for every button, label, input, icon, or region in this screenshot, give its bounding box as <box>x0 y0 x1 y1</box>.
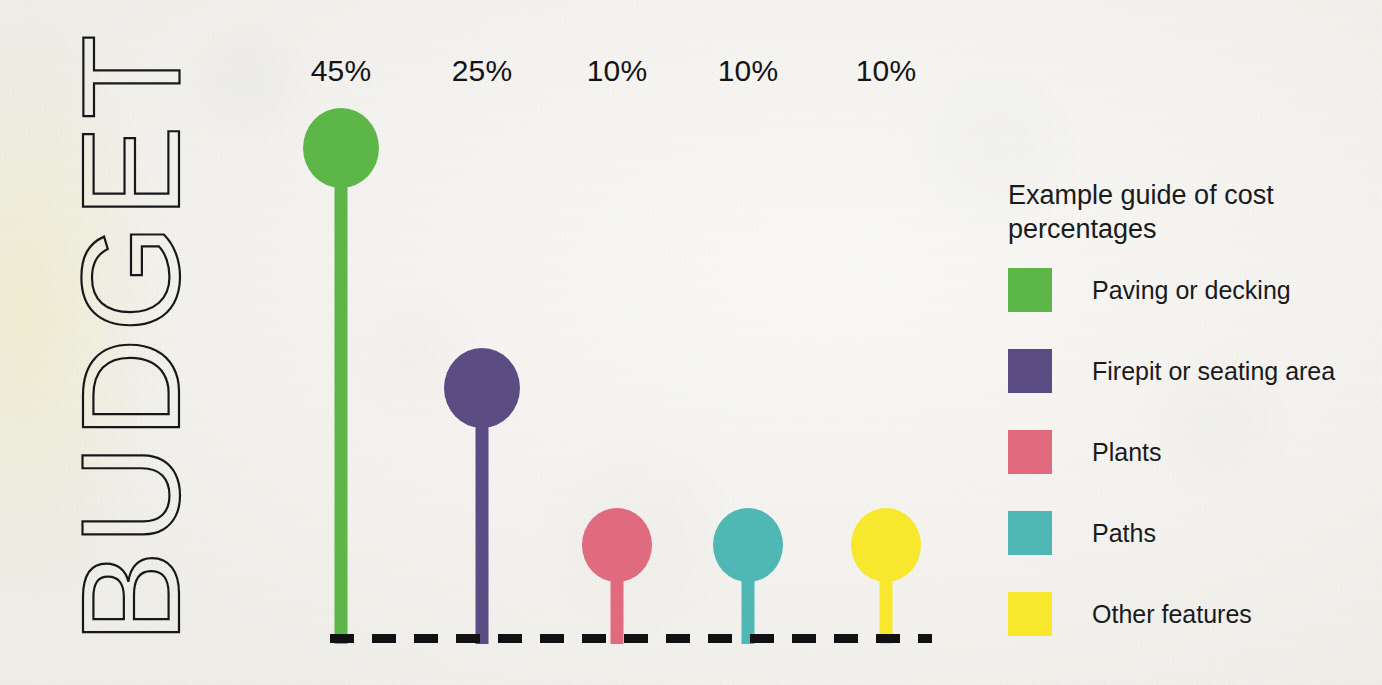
lollipop-mark[interactable]: 45% <box>281 0 401 644</box>
value-label: 10% <box>856 54 917 88</box>
lollipop-mark[interactable]: 10% <box>557 0 677 644</box>
legend-title: Example guide of cost percentages <box>1008 178 1328 246</box>
legend-color-swatch <box>1008 349 1052 393</box>
legend-item[interactable]: Other features <box>1008 592 1368 636</box>
lollipop-mark[interactable]: 10% <box>688 0 808 644</box>
lollipop-head-marker <box>582 508 652 582</box>
legend-item[interactable]: Plants <box>1008 430 1368 474</box>
lollipop-head-marker <box>713 508 783 582</box>
lollipop-stem <box>335 148 348 644</box>
value-label: 45% <box>311 54 372 88</box>
legend-item[interactable]: Paving or decking <box>1008 268 1368 312</box>
legend-item-label: Paving or decking <box>1092 276 1291 305</box>
legend-item-label: Plants <box>1092 438 1161 467</box>
legend-item[interactable]: Paths <box>1008 511 1368 555</box>
chart-canvas: BUDGET 45%25%10%10%10% Example guide of … <box>0 0 1382 685</box>
lollipop-mark[interactable]: 25% <box>422 0 542 644</box>
lollipop-head-marker <box>444 348 520 428</box>
legend-color-swatch <box>1008 430 1052 474</box>
legend-item-label: Firepit or seating area <box>1092 357 1335 386</box>
lollipop-mark[interactable]: 10% <box>826 0 946 644</box>
lollipop-head-marker <box>851 508 921 582</box>
legend-item-label: Paths <box>1092 519 1156 548</box>
value-label: 25% <box>452 54 513 88</box>
legend-item-label: Other features <box>1092 600 1252 629</box>
lollipop-head-marker <box>303 108 379 188</box>
value-label: 10% <box>587 54 648 88</box>
legend-color-swatch <box>1008 592 1052 636</box>
dashed-baseline-axis <box>330 634 932 643</box>
legend-color-swatch <box>1008 511 1052 555</box>
legend-color-swatch <box>1008 268 1052 312</box>
legend: Example guide of cost percentages Paving… <box>1008 178 1368 636</box>
value-label: 10% <box>718 54 779 88</box>
legend-items-group: Paving or deckingFirepit or seating area… <box>1008 268 1368 636</box>
legend-item[interactable]: Firepit or seating area <box>1008 349 1368 393</box>
